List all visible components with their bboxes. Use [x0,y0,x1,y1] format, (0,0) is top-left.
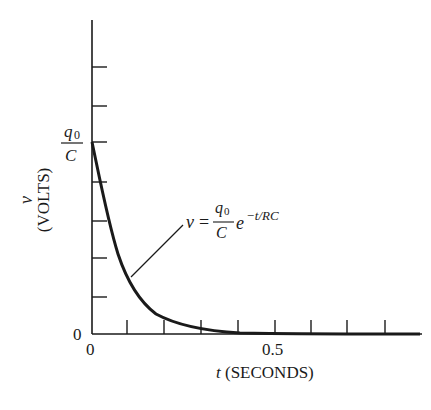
annotation-leader-line [131,225,183,277]
equation-annotation: v = q 0 C e −t/RC [186,199,279,241]
svg-text:q: q [215,199,223,217]
svg-text:t (SECONDS): t (SECONDS) [216,363,314,382]
svg-text:−t/RC: −t/RC [246,208,279,223]
x-axis-title: t (SECONDS) [216,363,314,382]
svg-text:v: v [186,212,194,232]
svg-text:C: C [65,146,77,165]
y-zero-label: 0 [73,325,82,344]
svg-text:C: C [216,224,227,241]
svg-text:(VOLTS): (VOLTS) [34,168,53,233]
svg-text:e: e [236,213,244,233]
svg-text:v: v [16,196,36,204]
svg-text:0: 0 [74,128,80,142]
rc-discharge-chart: q 0 C 0 0 0.5 t (SECONDS) v (VOLTS) v = … [0,0,431,410]
x-half-label: 0.5 [262,340,283,359]
svg-text:q: q [64,122,73,141]
svg-text:0: 0 [224,205,230,217]
decay-curve [92,142,420,334]
x-zero-label: 0 [86,340,95,359]
y-axis-title: v (VOLTS) [16,168,53,233]
y-label-q0-over-c: q 0 C [61,122,83,165]
svg-text:=: = [199,212,209,232]
